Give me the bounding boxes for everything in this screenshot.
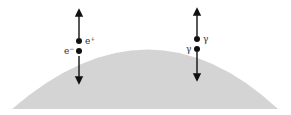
photon-label-lower: γ [186, 44, 191, 54]
photon-dot-lower [194, 46, 200, 52]
positron-label: e+ [85, 35, 95, 46]
positron-dot [76, 38, 82, 44]
electron-dot [76, 48, 82, 54]
electron-label: e− [64, 45, 74, 56]
pair-production-diagram: e+ e− γ γ [0, 0, 291, 115]
photon-dot-upper [194, 36, 200, 42]
photon-label-upper: γ [203, 34, 208, 44]
surface-dome [12, 50, 278, 110]
